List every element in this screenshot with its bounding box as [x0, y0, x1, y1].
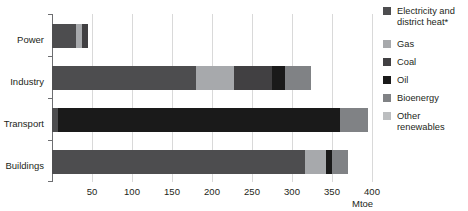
- bar-row: [52, 150, 348, 174]
- legend-item-label: Bioenergy: [397, 93, 439, 104]
- bar-segment: [52, 24, 76, 48]
- bar-segment: [272, 66, 285, 90]
- bar-segment: [82, 24, 88, 48]
- x-tick-label: 250: [244, 186, 260, 197]
- x-tick-label: 200: [204, 186, 220, 197]
- legend-swatch-icon: [383, 7, 391, 15]
- bar-segment: [52, 150, 305, 174]
- y-axis-tick-0: [48, 14, 52, 15]
- legend-item: Oil: [383, 75, 408, 86]
- x-axis-unit-label: Mtoe: [352, 198, 373, 209]
- category-label-3: Buildings: [0, 161, 44, 171]
- y-axis-tick-1: [48, 56, 52, 57]
- legend-swatch-icon: [383, 94, 391, 102]
- legend-item-label: Gas: [397, 39, 414, 50]
- x-tick-label: 400: [364, 186, 380, 197]
- legend-swatch-icon: [383, 40, 391, 48]
- x-tick-label: 300: [284, 186, 300, 197]
- bar-row: [52, 108, 368, 132]
- bar-segment: [340, 108, 368, 132]
- bar-segment: [305, 150, 327, 174]
- legend-item: Electricity and district heat*: [383, 6, 465, 28]
- y-axis-tick-3: [48, 140, 52, 141]
- legend-item-label: Other renewables: [397, 111, 465, 133]
- bar-segment: [285, 66, 311, 90]
- legend-item-label: Oil: [397, 75, 408, 86]
- legend-swatch-icon: [383, 76, 391, 84]
- category-label-2: Transport: [0, 119, 44, 129]
- bar-segment: [196, 66, 234, 90]
- category-label-0: Power: [0, 35, 44, 45]
- legend-item-label: Electricity and district heat*: [397, 6, 465, 28]
- category-axis-labels: Power Industry Transport Buildings: [0, 14, 48, 182]
- plot-area: Power Industry Transport Buildings: [0, 0, 382, 211]
- bar-segment: [52, 66, 196, 90]
- bar-segment: [332, 150, 348, 174]
- gridline-400: [372, 14, 373, 182]
- legend-item: Gas: [383, 39, 414, 50]
- bar-segment: [58, 108, 340, 132]
- x-tick-label: 350: [324, 186, 340, 197]
- bar-row: [52, 24, 88, 48]
- legend-item: Other renewables: [383, 111, 465, 133]
- bar-row: [52, 66, 311, 90]
- x-tick-label: 50: [87, 186, 98, 197]
- axes: [52, 14, 372, 182]
- legend-item-label: Coal: [397, 57, 416, 68]
- x-tick-label: 100: [124, 186, 140, 197]
- y-axis-tick-2: [48, 98, 52, 99]
- x-tick-label: 150: [164, 186, 180, 197]
- legend-swatch-icon: [383, 58, 391, 66]
- legend-item: Bioenergy: [383, 93, 439, 104]
- legend-item: Coal: [383, 57, 416, 68]
- category-label-1: Industry: [0, 77, 44, 87]
- stacked-bar-chart: Power Industry Transport Buildings: [0, 0, 468, 211]
- x-axis-tick-labels: 50 100 150 200 250 300 350 400: [52, 186, 372, 198]
- y-axis-tick-4: [48, 181, 52, 182]
- legend-swatch-icon: [383, 112, 391, 120]
- bar-segment: [234, 66, 272, 90]
